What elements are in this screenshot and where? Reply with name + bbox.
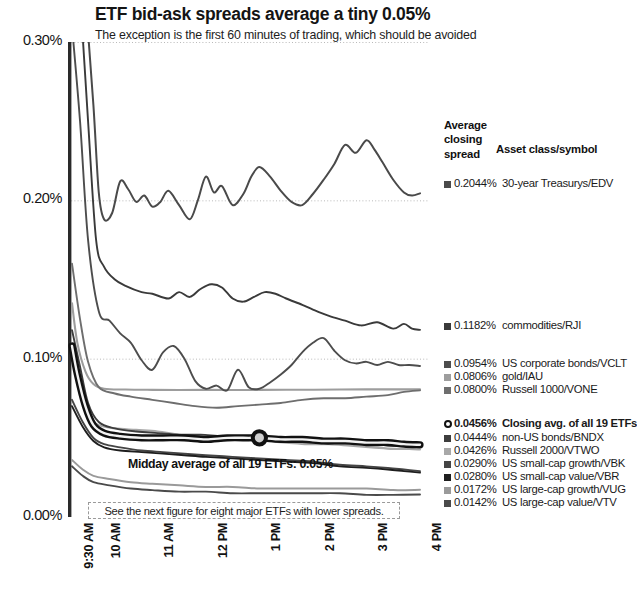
legend-label: 30-year Treasurys/EDV (502, 178, 613, 190)
legend-item[interactable]: 0.0456%Closing avg. of all 19 ETFs (444, 418, 637, 430)
square-marker-icon (444, 181, 451, 188)
footnote-label: See the next figure for eight major ETFs… (104, 505, 383, 517)
legend-label: gold/IAU (502, 371, 543, 383)
legend-item[interactable]: 0.0806%gold/IAU (444, 371, 543, 383)
legend-item[interactable]: 0.0444%non-US bonds/BNDX (444, 432, 604, 444)
legend-value: 0.0806% (454, 371, 502, 383)
legend-label: US small-cap growth/VBK (502, 458, 625, 470)
legend-header: Average closing spread Asset class/symbo… (444, 118, 636, 161)
legend-item[interactable]: 0.0172%US large-cap growth/VUG (444, 484, 626, 496)
legend-value: 0.0444% (454, 432, 502, 444)
legend-label: Closing avg. of all 19 ETFs (502, 418, 637, 430)
square-marker-icon (444, 374, 451, 381)
legend-header-spread: Average closing spread (444, 118, 496, 161)
ring-marker-icon (444, 420, 452, 428)
legend-label: US corporate bonds/VCLT (502, 358, 627, 370)
legend-item[interactable]: 0.0800%Russell 1000/VONE (444, 384, 597, 396)
legend-value: 0.0954% (454, 358, 502, 370)
legend-value: 0.0290% (454, 458, 502, 470)
legend-item[interactable]: 0.0290%US small-cap growth/VBK (444, 458, 625, 470)
chart-canvas (68, 42, 428, 517)
x-axis-tick: 9:30 AM (82, 523, 96, 569)
legend-label: US large-cap growth/VUG (502, 484, 626, 496)
legend-label: commodities/RJI (502, 320, 581, 332)
legend-value: 0.0280% (454, 471, 502, 483)
legend-label: Russell 2000/VTWO (502, 445, 599, 457)
legend-value: 0.0456% (454, 418, 502, 430)
legend-label: Russell 1000/VONE (502, 384, 597, 396)
legend: Average closing spread Asset class/symbo… (444, 118, 636, 161)
square-marker-icon (444, 435, 451, 442)
legend-value: 0.2044% (454, 178, 502, 190)
chart-header: ETF bid-ask spreads average a tiny 0.05%… (95, 4, 525, 42)
legend-item[interactable]: 0.2044%30-year Treasurys/EDV (444, 178, 613, 190)
x-axis-tick: 4 PM (430, 523, 444, 551)
x-axis-tick: 10 AM (109, 523, 123, 558)
legend-item[interactable]: 0.1182%commodities/RJI (444, 320, 581, 332)
legend-value: 0.0800% (454, 384, 502, 396)
square-marker-icon (444, 387, 451, 394)
legend-item[interactable]: 0.0954%US corporate bonds/VCLT (444, 358, 627, 370)
legend-label: US large-cap value/VTV (502, 497, 617, 509)
square-marker-icon (444, 361, 451, 368)
legend-item[interactable]: 0.0280%US small-cap value/VBR (444, 471, 619, 483)
legend-label: US small-cap value/VBR (502, 471, 619, 483)
legend-value: 0.1182% (454, 320, 502, 332)
x-axis-tick: 12 PM (216, 523, 230, 558)
legend-item[interactable]: 0.0142%US large-cap value/VTV (444, 497, 617, 509)
x-axis-tick: 1 PM (269, 523, 283, 551)
square-marker-icon (444, 487, 451, 494)
y-axis-tick: 0.10% (23, 349, 62, 365)
footnote-box: See the next figure for eight major ETFs… (88, 502, 400, 519)
legend-value: 0.0142% (454, 497, 502, 509)
square-marker-icon (444, 448, 451, 455)
legend-header-asset: Asset class/symbol (496, 118, 597, 161)
legend-item[interactable]: 0.0426%Russell 2000/VTWO (444, 445, 599, 457)
square-marker-icon (444, 474, 451, 481)
x-axis: 9:30 AM10 AM11 AM12 PM1 PM2 PM3 PM4 PM (68, 519, 468, 593)
y-axis-tick: 0.00% (23, 507, 62, 523)
legend-value: 0.0172% (454, 484, 502, 496)
plot-area (68, 42, 428, 517)
square-marker-icon (444, 500, 451, 507)
x-axis-tick: 3 PM (376, 523, 390, 551)
page-title: ETF bid-ask spreads average a tiny 0.05% (95, 4, 525, 24)
legend-label: non-US bonds/BNDX (502, 432, 604, 444)
square-marker-icon (444, 323, 451, 330)
y-axis-tick: 0.30% (23, 32, 62, 48)
y-axis: 0.00%0.10%0.20%0.30% (0, 0, 62, 593)
legend-value: 0.0426% (454, 445, 502, 457)
chart-subtitle: The exception is the first 60 minutes of… (95, 28, 525, 42)
x-axis-tick: 2 PM (323, 523, 337, 551)
y-axis-tick: 0.20% (23, 190, 62, 206)
square-marker-icon (444, 461, 451, 468)
midday-annotation: Midday average of all 19 ETFs: 0.05% (128, 457, 333, 471)
x-axis-tick: 11 AM (162, 523, 176, 557)
